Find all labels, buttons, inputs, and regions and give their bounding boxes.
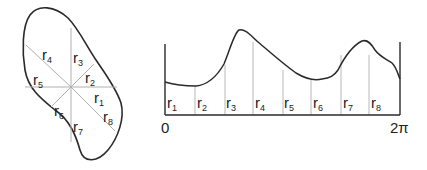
graph-label-r2: r2 (197, 94, 207, 113)
x-start-label: 0 (161, 119, 169, 136)
shape-label-r1: r1 (94, 89, 104, 108)
shape-label-r3: r3 (73, 49, 83, 68)
polar-shape: r1 r2 r3 r4 r5 r6 r7 r8 (23, 8, 122, 160)
graph-label-r6: r6 (313, 94, 323, 113)
graph-label-r3: r3 (226, 94, 236, 113)
graph-label-r4: r4 (255, 94, 265, 113)
shape-label-r2: r2 (85, 69, 95, 88)
shape-label-r4: r4 (42, 46, 52, 65)
shape-label-r8: r8 (103, 108, 113, 127)
x-end-label: 2π (390, 119, 409, 136)
shape-label-r7: r7 (73, 118, 83, 137)
radius-graph: r1 r2 r3 r4 r5 r6 r7 r8 0 2π (161, 30, 409, 136)
shape-label-r6: r6 (54, 102, 64, 121)
graph-label-r8: r8 (371, 94, 381, 113)
diagram-canvas: r1 r2 r3 r4 r5 r6 r7 r8 r1 r2 r3 r4 r5 (0, 0, 427, 170)
graph-label-r1: r1 (167, 94, 177, 113)
graph-label-r7: r7 (343, 94, 353, 113)
shape-label-r5: r5 (33, 71, 43, 90)
graph-label-r5: r5 (284, 94, 294, 113)
